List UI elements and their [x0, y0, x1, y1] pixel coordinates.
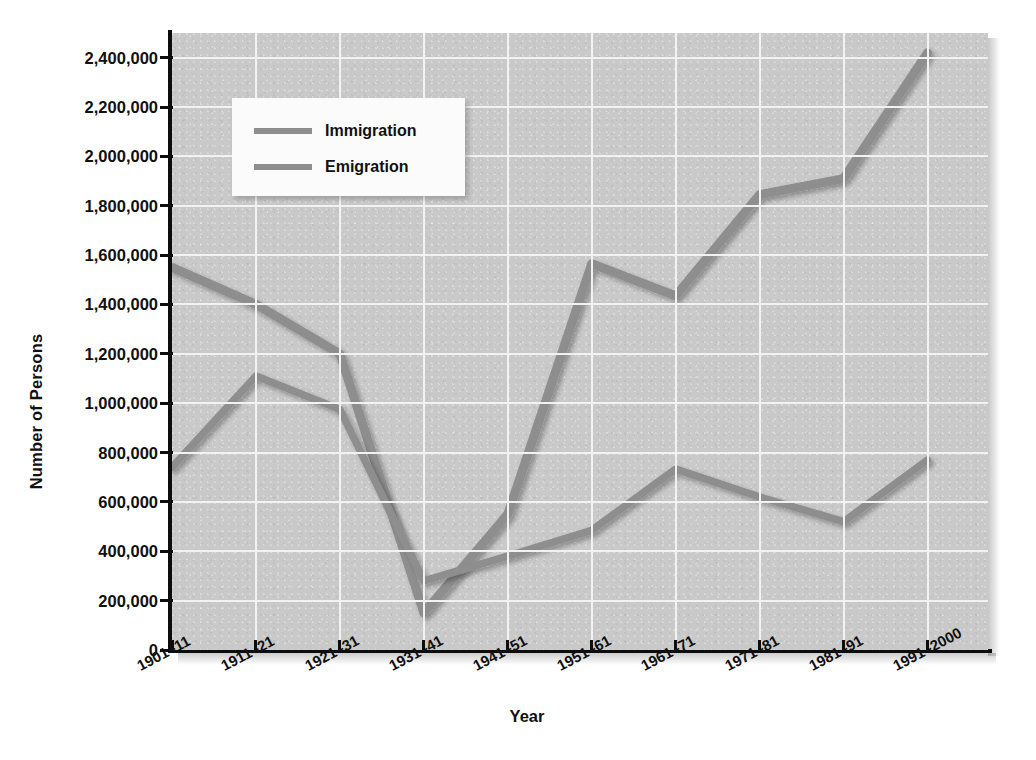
y-axis-tick-mark [160, 500, 173, 503]
y-axis-tick-mark [160, 155, 173, 158]
gridline-horizontal [172, 501, 988, 503]
y-axis-tick-mark [160, 254, 173, 257]
y-axis-tick-label: 200,000 [10, 591, 158, 610]
legend-item-emigration: Emigration [254, 156, 409, 178]
y-axis-tick-labels: 0200,000400,000600,000800,0001,000,0001,… [10, 0, 158, 760]
gridline-horizontal [172, 353, 988, 355]
gridline-horizontal [172, 303, 988, 305]
y-axis-tick-mark [160, 599, 173, 602]
gridline-vertical [843, 33, 845, 650]
y-axis-tick-mark [160, 303, 173, 306]
gridline-horizontal [172, 254, 988, 256]
y-axis-tick-label: 1,200,000 [10, 344, 158, 363]
y-axis-tick-mark [160, 106, 173, 109]
gridline-vertical [675, 33, 677, 650]
legend-label-immigration: Immigration [325, 122, 417, 140]
panel-shadow-right [988, 38, 1000, 656]
y-axis-tick-label: 2,000,000 [10, 147, 158, 166]
gridline-vertical [927, 33, 929, 650]
y-axis-tick-label: 400,000 [10, 542, 158, 561]
y-axis-tick-mark [160, 550, 173, 553]
y-axis-tick-label: 1,800,000 [10, 196, 158, 215]
gridline-vertical [591, 33, 593, 650]
gridline-horizontal [172, 402, 988, 404]
y-axis-tick-label: 2,400,000 [10, 48, 158, 67]
y-axis-tick-mark [160, 56, 173, 59]
gridline-horizontal [172, 452, 988, 454]
y-axis-tick-mark [160, 352, 173, 355]
chart-figure: Number of Persons 0200,000400,000600,000… [0, 0, 1036, 760]
gridline-horizontal [172, 57, 988, 59]
y-axis-tick-label: 600,000 [10, 492, 158, 511]
y-axis-tick-label: 1,400,000 [10, 295, 158, 314]
gridline-vertical [507, 33, 509, 650]
legend-swatch-immigration [254, 128, 312, 134]
y-axis-tick-mark [160, 451, 173, 454]
y-axis-tick-mark [160, 204, 173, 207]
x-axis-title: Year [447, 707, 607, 726]
legend-item-immigration: Immigration [254, 120, 417, 142]
gridline-vertical [759, 33, 761, 650]
gridline-horizontal [172, 600, 988, 602]
gridline-horizontal [172, 550, 988, 552]
chart-legend: Immigration Emigration [232, 98, 465, 196]
y-axis-tick-mark [160, 402, 173, 405]
y-axis-tick-label: 2,200,000 [10, 98, 158, 117]
y-axis-tick-label: 800,000 [10, 443, 158, 462]
y-axis-tick-label: 1,600,000 [10, 246, 158, 265]
gridline-horizontal [172, 205, 988, 207]
legend-swatch-emigration [254, 164, 312, 170]
legend-label-emigration: Emigration [325, 158, 409, 176]
y-axis-tick-label: 1,000,000 [10, 394, 158, 413]
